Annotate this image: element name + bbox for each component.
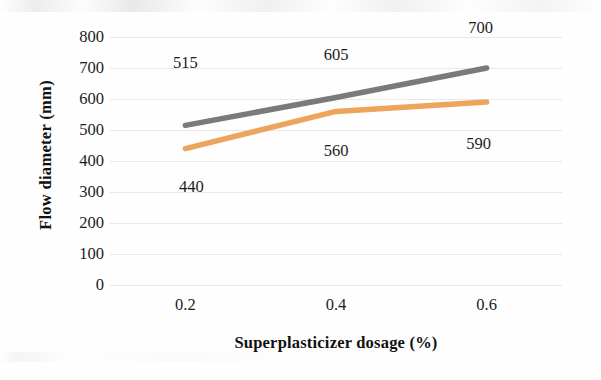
chart-figure: Flow diameter (mm) 800700600500400300200… bbox=[0, 0, 601, 380]
x-tick-label: 0.6 bbox=[452, 297, 522, 314]
x-tick-label: 0.4 bbox=[301, 297, 371, 314]
x-axis-title: Superplasticizer dosage (%) bbox=[110, 333, 562, 353]
x-axis-tick-labels: 0.20.40.6 bbox=[0, 0, 601, 380]
x-tick-label: 0.2 bbox=[150, 297, 220, 314]
